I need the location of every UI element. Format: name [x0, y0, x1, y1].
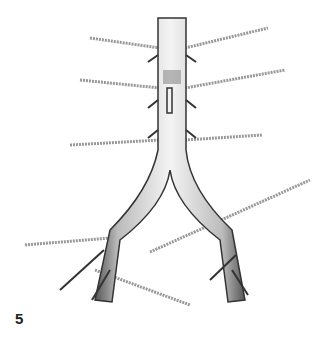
- figure-number: 5: [15, 310, 23, 327]
- aorta-vessel: [95, 18, 245, 302]
- shadow-area: [163, 70, 181, 84]
- aorta-illustration: [0, 0, 328, 341]
